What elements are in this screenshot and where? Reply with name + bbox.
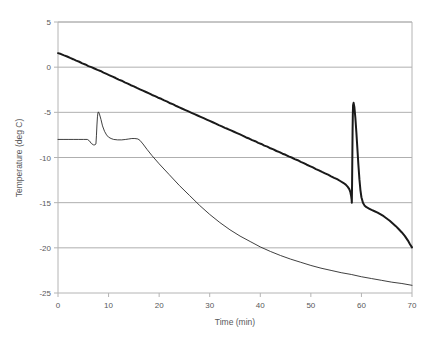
x-tick-label: 30 [205,301,214,310]
x-tick-label: 0 [56,301,61,310]
chart-canvas: 50-5-10-15-20-25 010203040506070 Tempera… [0,0,436,339]
x-tick-label: 50 [306,301,315,310]
temperature-time-chart: 50-5-10-15-20-25 010203040506070 Tempera… [0,0,436,339]
y-tick-label: -15 [39,199,51,208]
y-tick-label: 5 [47,18,52,27]
x-axis-label: Time (min) [215,317,255,327]
y-tick-label: -10 [39,154,51,163]
y-tick-label: -20 [39,244,51,253]
x-tick-label: 20 [155,301,164,310]
plot-background [0,0,436,339]
y-tick-label: -25 [39,289,51,298]
y-tick-label: -5 [44,108,52,117]
x-tick-label: 10 [104,301,113,310]
x-tick-label: 40 [256,301,265,310]
x-tick-label: 70 [408,301,417,310]
y-tick-label: 0 [47,63,52,72]
y-axis-label: Temperature (deg C) [14,119,24,198]
x-tick-label: 60 [357,301,366,310]
